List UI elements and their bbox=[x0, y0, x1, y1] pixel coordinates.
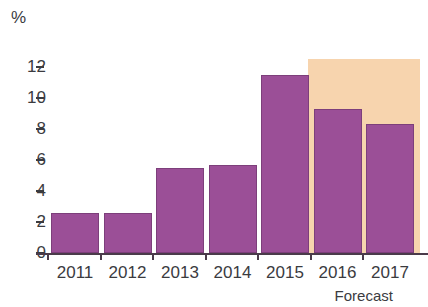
x-axis-label-2011: 2011 bbox=[48, 263, 102, 283]
x-axis-label-2012: 2012 bbox=[101, 263, 155, 283]
bar-2012 bbox=[104, 213, 152, 253]
x-axis-tick-mark-2016 bbox=[310, 255, 312, 260]
x-axis-label-2017: 2017 bbox=[363, 263, 417, 283]
bar-2015 bbox=[261, 75, 309, 253]
y-axis-tick-mark-6 bbox=[36, 159, 44, 161]
x-axis-label-2014: 2014 bbox=[206, 263, 260, 283]
forecast-annotation-label: Forecast bbox=[304, 287, 424, 304]
x-axis-tick-mark-2011 bbox=[47, 255, 49, 260]
plot-area bbox=[44, 10, 428, 255]
bar-2013 bbox=[156, 168, 204, 253]
y-axis-tick-mark-10 bbox=[36, 97, 44, 99]
y-axis-tick-mark-2 bbox=[36, 221, 44, 223]
y-axis-tick-mark-12 bbox=[36, 66, 44, 68]
y-axis-tick-mark-4 bbox=[36, 190, 44, 192]
bar-2014 bbox=[209, 165, 257, 253]
x-axis-label-2015: 2015 bbox=[258, 263, 312, 283]
bar-2011 bbox=[51, 213, 99, 253]
x-axis-tick-mark-2015 bbox=[257, 255, 259, 260]
x-axis-tick-mark-2013 bbox=[152, 255, 154, 260]
x-axis-baseline bbox=[36, 253, 428, 255]
bar-2016 bbox=[314, 109, 362, 253]
x-axis-tick-mark-2017 bbox=[362, 255, 364, 260]
bar-chart: % 121086420 2011201220132014201520162017… bbox=[0, 0, 428, 307]
y-axis-tick-mark-8 bbox=[36, 128, 44, 130]
x-axis-label-2016: 2016 bbox=[311, 263, 365, 283]
bar-2017 bbox=[366, 124, 414, 253]
x-axis-tick-mark-2014 bbox=[205, 255, 207, 260]
x-axis-tick-mark-2012 bbox=[100, 255, 102, 260]
x-axis-label-2013: 2013 bbox=[153, 263, 207, 283]
y-axis-unit-label: % bbox=[11, 8, 26, 28]
